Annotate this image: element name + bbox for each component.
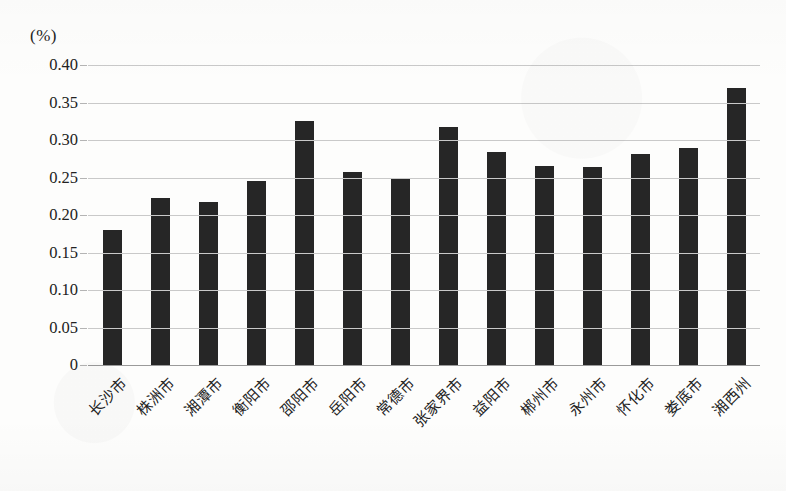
bar [103, 230, 122, 365]
bar [679, 148, 698, 365]
bar [487, 152, 506, 365]
y-axis-tick [80, 215, 87, 216]
y-axis-tick [80, 290, 87, 291]
bar [535, 166, 554, 366]
bar [247, 181, 266, 365]
y-axis-tick-label: 0.30 [16, 130, 78, 150]
bar-chart-figure: (%) 长沙市株洲市湘潭市衡阳市邵阳市岳阳市常德市张家界市益阳市郴州市永州市怀化… [0, 0, 786, 491]
gridline [88, 178, 760, 179]
y-axis-tick-label: 0.40 [16, 55, 78, 75]
y-axis-tick-label: 0 [16, 355, 78, 375]
y-axis-tick-label: 0.05 [16, 318, 78, 338]
gridline [88, 65, 760, 66]
gridline [88, 215, 760, 216]
bar [727, 88, 746, 366]
plot-area [88, 65, 760, 365]
y-axis-tick-label: 0.10 [16, 280, 78, 300]
y-axis-tick-label: 0.20 [16, 205, 78, 225]
y-axis-tick [80, 328, 87, 329]
gridline [88, 328, 760, 329]
y-axis-tick [80, 140, 87, 141]
y-axis-tick [80, 103, 87, 104]
gridline [88, 103, 760, 104]
y-axis-tick-label: 0.15 [16, 243, 78, 263]
bar [391, 178, 410, 366]
gridline [88, 140, 760, 141]
bar [583, 167, 602, 365]
bar [199, 202, 218, 365]
bar [439, 127, 458, 366]
bar [343, 172, 362, 365]
gridline [88, 290, 760, 291]
gridline [88, 253, 760, 254]
y-axis-tick [80, 253, 87, 254]
y-axis-tick [80, 365, 87, 366]
y-axis-tick [80, 65, 87, 66]
y-axis-tick-label: 0.25 [16, 168, 78, 188]
bar [151, 198, 170, 365]
y-axis-tick [80, 178, 87, 179]
bar [631, 154, 650, 365]
x-axis-labels: 长沙市株洲市湘潭市衡阳市邵阳市岳阳市常德市张家界市益阳市郴州市永州市怀化市娄底市… [88, 366, 760, 486]
y-axis-unit-label: (%) [30, 26, 57, 46]
y-axis-tick-label: 0.35 [16, 93, 78, 113]
